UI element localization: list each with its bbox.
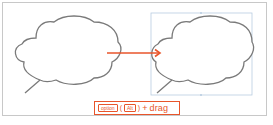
shortcut-caption: option ( Alt ) + drag [94,101,180,115]
original-speech-bubble [15,16,120,93]
drag-label: drag [149,104,168,113]
paren-close: ) [138,104,140,112]
cloud-bubble-left [15,16,120,93]
alt-key: Alt [124,104,136,112]
option-key: option [98,104,118,112]
cloud-bubble-right [152,16,254,93]
selection-handle-bottom [200,94,202,96]
paren-open: ( [120,104,122,112]
plus-sign: + [142,104,147,113]
selection-handle-top [200,12,202,14]
duplicated-speech-bubble [152,16,254,93]
